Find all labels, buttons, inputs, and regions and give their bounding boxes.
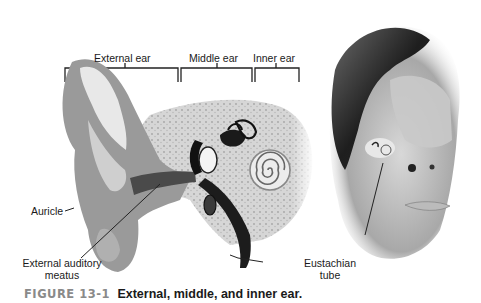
- label-meatus-line1: External auditory: [22, 257, 102, 269]
- figure-caption-text: External, middle, and inner ear.: [117, 287, 302, 301]
- label-external-ear: External ear: [94, 52, 151, 64]
- label-external-auditory-meatus: External auditory meatus: [22, 257, 102, 281]
- label-eustachian-tube: Eustachian tube: [300, 257, 360, 281]
- figure-number: FIGURE 13-1: [24, 287, 110, 301]
- figure-caption: FIGURE 13-1 External, middle, and inner …: [24, 287, 302, 301]
- label-inner-ear: Inner ear: [253, 52, 295, 64]
- cochlea: [250, 150, 290, 190]
- label-eustachian-line2: tube: [300, 269, 360, 281]
- figure: External ear Middle ear Inner ear Auricl…: [0, 0, 481, 303]
- label-auricle: Auricle: [31, 205, 63, 217]
- head-illustration: [330, 27, 460, 259]
- label-eustachian-line1: Eustachian: [300, 257, 360, 269]
- label-middle-ear: Middle ear: [189, 52, 238, 64]
- label-meatus-line2: meatus: [22, 269, 102, 281]
